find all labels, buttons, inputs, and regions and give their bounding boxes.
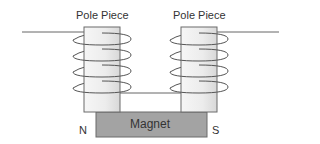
pole-piece-right (181, 27, 217, 112)
north-pole-label: N (79, 124, 87, 136)
pole-piece-left (84, 27, 120, 112)
pole-piece-left-label: Pole Piece (76, 9, 129, 21)
magnet-label: Magnet (130, 117, 170, 131)
south-pole-label: S (212, 124, 219, 136)
pole-piece-right-label: Pole Piece (173, 9, 226, 21)
